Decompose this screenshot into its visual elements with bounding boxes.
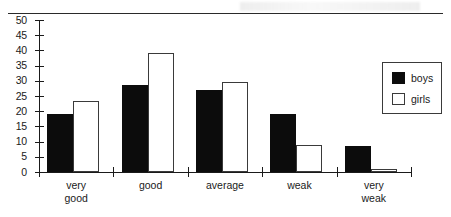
x-tick-mark xyxy=(188,167,189,177)
y-tick-mark xyxy=(35,157,44,158)
bar-girls-0 xyxy=(73,101,99,172)
bar-girls-3 xyxy=(296,145,322,172)
x-tick-mark-origin xyxy=(39,167,40,177)
y-tick-label: 20 xyxy=(5,106,27,116)
bar-girls-1 xyxy=(148,53,174,172)
y-tick-label: 10 xyxy=(5,136,27,146)
bar-boys-1 xyxy=(122,85,148,172)
category-label-0: very good xyxy=(36,179,116,204)
bar-boys-3 xyxy=(270,114,296,172)
y-tick-mark xyxy=(35,111,44,112)
bar-boys-4 xyxy=(345,146,371,172)
x-tick-mark xyxy=(337,167,338,177)
y-tick-mark xyxy=(35,142,44,143)
x-tick-mark xyxy=(262,167,263,177)
category-label-2: average xyxy=(185,179,265,192)
y-tick-mark xyxy=(35,96,44,97)
bar-boys-2 xyxy=(196,90,222,172)
y-tick-mark xyxy=(35,50,44,51)
y-tick-label: 35 xyxy=(5,60,27,70)
legend-item-girls: girls xyxy=(392,93,430,105)
legend-label-boys: boys xyxy=(411,73,433,84)
category-label-1: good xyxy=(111,179,191,192)
chart-legend: boys girls xyxy=(382,62,442,114)
legend-swatch-girls-icon xyxy=(392,93,405,105)
y-tick-label: 40 xyxy=(5,45,27,55)
bar-girls-4 xyxy=(371,169,397,172)
y-tick-label: 30 xyxy=(5,75,27,85)
y-tick-label: 45 xyxy=(5,30,27,40)
category-label-4: very weak xyxy=(334,179,414,204)
y-tick-mark xyxy=(35,126,44,127)
y-tick-label: 5 xyxy=(5,151,27,161)
y-tick-label: 15 xyxy=(5,121,27,131)
y-tick-label: 25 xyxy=(5,91,27,101)
y-tick-mark xyxy=(35,66,44,67)
y-tick-mark xyxy=(35,20,44,21)
legend-label-girls: girls xyxy=(411,94,430,105)
bar-boys-0 xyxy=(47,114,73,172)
x-axis-line xyxy=(39,172,411,173)
y-tick-mark xyxy=(35,81,44,82)
y-tick-mark xyxy=(35,35,44,36)
category-label-3: weak xyxy=(259,179,339,192)
legend-item-boys: boys xyxy=(392,72,433,84)
bar-girls-2 xyxy=(222,82,248,172)
y-tick-label: 0 xyxy=(5,167,27,177)
x-tick-mark xyxy=(113,167,114,177)
x-tick-mark xyxy=(411,167,412,177)
legend-swatch-boys-icon xyxy=(392,72,405,84)
y-tick-label: 50 xyxy=(5,15,27,25)
chart-page: 50454035302520151050 very goodgoodaverag… xyxy=(0,0,451,217)
